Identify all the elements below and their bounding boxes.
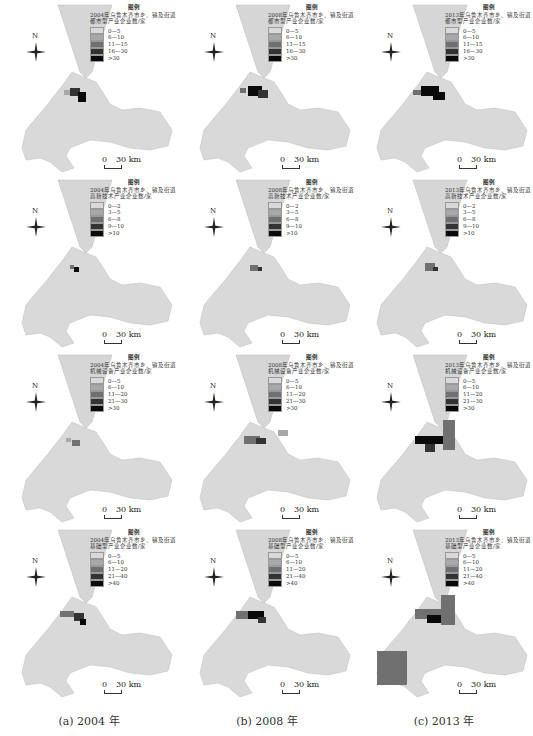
legend-class-label: 6—10 [463, 559, 479, 566]
legend-class-label: 16—30 [286, 48, 306, 55]
legend-class: >30 [445, 405, 533, 412]
legend-class-label: >30 [286, 405, 298, 412]
map-panel-r2-2008: N 图例 2008年乌鲁木齐市乡、镇及街道高新技术产业企业数/家 0—23—56… [178, 175, 356, 350]
north-label: N [32, 382, 38, 390]
legend-swatch [90, 580, 104, 587]
legend-swatch [268, 405, 282, 412]
legend-title: 图例 [445, 179, 533, 186]
legend: 图例 2004年乌鲁木齐市乡、镇及街道都市型产业企业数/家 0—56—1011—… [90, 4, 178, 61]
legend-class-label: >30 [463, 405, 475, 412]
legend-class: >30 [268, 405, 356, 412]
legend-class-label: 6—10 [463, 34, 479, 41]
legend-description: 2013年乌鲁木齐市乡、镇及街道高新技术产业企业数/家 [445, 187, 533, 200]
caption-2008: (b) 2008 年 [178, 712, 356, 728]
legend-class: >40 [90, 580, 178, 587]
legend-class-label: 9—10 [108, 223, 124, 230]
figure-grid: N 图例 2004年乌鲁木齐市乡、镇及街道都市型产业企业数/家 0—56—101… [0, 0, 533, 700]
legend-class-label: >40 [286, 580, 298, 587]
legend-class-label: 6—8 [108, 216, 121, 223]
scale-bar: 0 30 km [280, 680, 340, 694]
scale-bar: 0 30 km [457, 680, 517, 694]
legend-class-label: 11—20 [108, 391, 128, 398]
legend-class-label: 11—20 [286, 391, 306, 398]
legend-class-label: 0—5 [108, 28, 121, 35]
map-panel-r2-2013: N 图例 2013年乌鲁木齐市乡、镇及街道高新技术产业企业数/家 0—23—56… [355, 175, 533, 350]
scale-distance: 30 km [294, 505, 319, 514]
legend-swatch [90, 55, 104, 62]
legend-swatch [90, 230, 104, 237]
legend-class-label: >10 [463, 230, 475, 237]
legend-class-label: 6—8 [463, 216, 476, 223]
map-panel-r1-2004: N 图例 2004年乌鲁木齐市乡、镇及街道都市型产业企业数/家 0—56—101… [0, 0, 178, 175]
north-arrow-icon: N [381, 559, 401, 589]
legend-class-label: 0—5 [108, 553, 121, 560]
legend-class-label: 6—10 [108, 559, 124, 566]
legend-class: >30 [445, 55, 533, 62]
map-panel-r1-2008: N 图例 2008年乌鲁木齐市乡、镇及街道都市型产业企业数/家 0—56—101… [178, 0, 356, 175]
north-arrow-icon: N [381, 384, 401, 414]
map-panel-r2-2004: N 图例 2004年乌鲁木齐市乡、镇及街道高新技术产业企业数/家 0—23—56… [0, 175, 178, 350]
legend-swatch [445, 55, 459, 62]
legend-class-label: 0—5 [463, 28, 476, 35]
legend-description: 2004年乌鲁木齐市乡、镇及街道基础型产业企业数/家 [90, 537, 178, 550]
legend-description: 2004年乌鲁木齐市乡、镇及街道高新技术产业企业数/家 [90, 187, 178, 200]
legend-class-label: 0—5 [286, 378, 299, 385]
legend: 图例 2013年乌鲁木齐市乡、镇及街道机械设备产业企业数/家 0—56—1011… [445, 354, 533, 411]
legend-class-label: >30 [286, 55, 298, 62]
legend-class-label: 6—10 [108, 384, 124, 391]
legend-title: 图例 [90, 529, 178, 536]
legend-class-label: 9—10 [286, 223, 302, 230]
north-arrow-icon: N [26, 559, 46, 589]
legend-class: >10 [445, 230, 533, 237]
legend-description: 2013年乌鲁木齐市乡、镇及街道都市型产业企业数/家 [445, 12, 533, 25]
scale-zero: 0 [457, 505, 462, 514]
legend-class: >10 [90, 230, 178, 237]
legend: 图例 2013年乌鲁木齐市乡、镇及街道高新技术产业企业数/家 0—23—56—8… [445, 179, 533, 236]
legend-title: 图例 [268, 529, 356, 536]
map-panel-r3-2004: N 图例 2004年乌鲁木齐市乡、镇及街道机械设备产业企业数/家 0—56—10… [0, 350, 178, 525]
north-arrow-icon: N [381, 34, 401, 64]
legend-class-label: 21—30 [108, 398, 128, 405]
legend: 图例 2013年乌鲁木齐市乡、镇及街道基础型产业企业数/家 0—56—1011—… [445, 529, 533, 586]
legend-class-label: >30 [108, 405, 120, 412]
scale-distance: 30 km [471, 505, 496, 514]
legend-class-label: 11—20 [286, 566, 306, 573]
north-label: N [387, 207, 393, 215]
north-label: N [210, 382, 216, 390]
legend-class-label: >30 [463, 55, 475, 62]
north-label: N [32, 207, 38, 215]
legend-description: 2004年乌鲁木齐市乡、镇及街道机械设备产业企业数/家 [90, 362, 178, 375]
north-label: N [210, 557, 216, 565]
scale-distance: 30 km [471, 330, 496, 339]
legend-title: 图例 [268, 354, 356, 361]
legend-class-label: 6—10 [286, 34, 302, 41]
north-label: N [32, 32, 38, 40]
legend: 图例 2008年乌鲁木齐市乡、镇及街道机械设备产业企业数/家 0—56—1011… [268, 354, 356, 411]
legend-description: 2013年乌鲁木齐市乡、镇及街道机械设备产业企业数/家 [445, 362, 533, 375]
scale-bar: 0 30 km [102, 155, 162, 169]
legend-description: 2008年乌鲁木齐市乡、镇及街道基础型产业企业数/家 [268, 537, 356, 550]
legend-class-label: >30 [108, 55, 120, 62]
scale-distance: 30 km [116, 330, 141, 339]
legend: 图例 2004年乌鲁木齐市乡、镇及街道高新技术产业企业数/家 0—23—56—8… [90, 179, 178, 236]
north-arrow-icon: N [26, 34, 46, 64]
legend-class-label: >40 [108, 580, 120, 587]
legend-swatch [268, 230, 282, 237]
scale-distance: 30 km [116, 680, 141, 689]
north-arrow-icon: N [204, 209, 224, 239]
scale-bar: 0 30 km [280, 330, 340, 344]
scale-zero: 0 [457, 680, 462, 689]
legend-description: 2013年乌鲁木齐市乡、镇及街道基础型产业企业数/家 [445, 537, 533, 550]
legend: 图例 2008年乌鲁木齐市乡、镇及街道都市型产业企业数/家 0—56—1011—… [268, 4, 356, 61]
scale-bar: 0 30 km [102, 330, 162, 344]
legend-title: 图例 [445, 4, 533, 11]
north-label: N [387, 382, 393, 390]
legend-title: 图例 [268, 4, 356, 11]
legend-class: >30 [268, 55, 356, 62]
scale-bar: 0 30 km [102, 680, 162, 694]
legend: 图例 2013年乌鲁木齐市乡、镇及街道都市型产业企业数/家 0—56—1011—… [445, 4, 533, 61]
legend-class-label: 16—30 [463, 48, 483, 55]
legend-class-label: 0—2 [286, 203, 299, 210]
legend-class-label: 21—30 [463, 398, 483, 405]
legend-class-label: 11—20 [108, 566, 128, 573]
